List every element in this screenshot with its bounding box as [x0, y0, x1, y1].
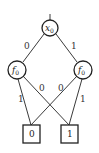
- terminal-0: 0: [23, 125, 40, 143]
- svg-text:1: 1: [67, 129, 73, 139]
- edge-label-left-t0: 1: [18, 94, 24, 104]
- bdd-diagram: 0 1 1 0 0 1 x0 f0 f0 0 1: [0, 0, 99, 153]
- edge-label-right-t1: 1: [80, 94, 86, 104]
- root-node: x0: [42, 20, 58, 36]
- terminal-1: 1: [61, 125, 78, 143]
- edge-label-right-t0: 0: [58, 83, 64, 93]
- left-node: f0: [8, 61, 26, 79]
- svg-text:0: 0: [29, 129, 35, 139]
- edge-right-t0: [31, 76, 77, 125]
- edge-label-root-left: 0: [24, 41, 30, 51]
- right-node: f0: [74, 61, 92, 79]
- edge-label-root-right: 1: [71, 41, 77, 51]
- edge-label-left-t1: 0: [39, 83, 45, 93]
